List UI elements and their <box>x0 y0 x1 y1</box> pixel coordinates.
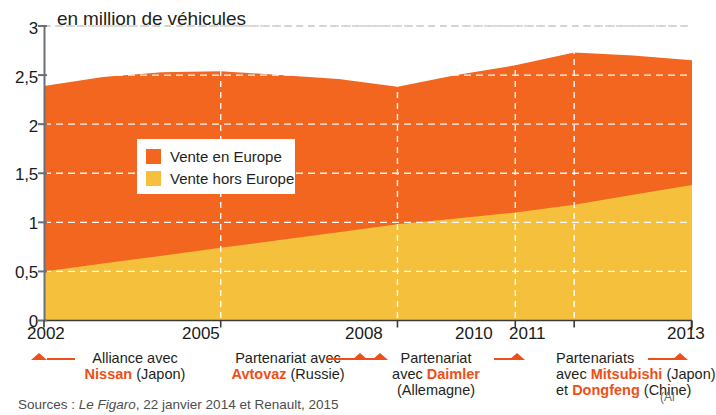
x-tick-2005: 2005 <box>182 325 220 342</box>
x-tick-2008: 2008 <box>345 325 383 342</box>
y-tick-3: 3 <box>2 20 38 37</box>
legend-swatch-icon-orange <box>146 149 161 164</box>
annotation-avtovaz-country: (Russie) <box>287 366 345 382</box>
annotation-nissan: Alliance avec Nissan (Japon) <box>80 350 190 382</box>
annotation-mitsubishi-country: (Japon) <box>662 366 715 382</box>
annotation-nissan-brand: Nissan <box>85 366 133 382</box>
annotation-daimler-line2-prefix: avec <box>392 366 427 382</box>
y-tick-1: 1 <box>2 215 38 232</box>
sources-prefix: Sources : <box>18 397 79 412</box>
annotation-avtovaz: Partenariat avec Avtovaz (Russie) <box>218 350 358 382</box>
x-tick-2011: 2011 <box>509 325 546 342</box>
legend-label-vente-hors-europe: Vente hors Europe <box>170 171 294 186</box>
annotation-marker-icon-daimler-left <box>352 353 368 360</box>
annotation-dongfeng-line3-prefix: et <box>556 382 572 398</box>
annotation-avtovaz-brand: Avtovaz <box>231 366 286 382</box>
annotation-nissan-country: (Japon) <box>132 366 185 382</box>
annotation-mitsubishi-line2-prefix: avec <box>556 366 591 382</box>
event-annotations: Alliance avec Nissan (Japon) Partenariat… <box>0 349 715 395</box>
legend-swatch-icon-yellow <box>146 171 161 186</box>
legend-label-vente-en-europe: Vente en Europe <box>170 149 282 164</box>
chart-legend: Vente en Europe Vente hors Europe <box>137 139 295 194</box>
annotation-daimler-line3: (Allemagne) <box>372 382 500 398</box>
annotation-marker-icon-daimler-right <box>509 353 525 360</box>
annotation-leader-line-nissan <box>47 358 75 360</box>
legend-item-vente-hors-europe: Vente hors Europe <box>146 167 287 189</box>
annotation-daimler-brand: Daimler <box>427 366 480 382</box>
y-tick-2-5: 2,5 <box>2 69 38 86</box>
annotation-daimler: Partenariat avec Daimler (Allemagne) <box>372 350 500 398</box>
page-title: en million de véhicules <box>57 8 246 30</box>
y-tick-2: 2 <box>2 118 38 135</box>
annotation-dongfeng-brand: Dongfeng <box>572 382 640 398</box>
sources-caption: Sources : Le Figaro, 22 janvier 2014 et … <box>18 397 338 412</box>
annotation-nissan-line1: Alliance avec <box>80 350 190 366</box>
y-tick-0-5: 0,5 <box>2 264 38 281</box>
annotation-marker-icon-mitsubishi <box>672 353 688 360</box>
x-axis-labels: 2002 2005 2008 2010 2011 2013 <box>0 325 715 349</box>
annotation-marker-icon-nissan <box>31 353 47 360</box>
annotation-daimler-line1: Partenariat <box>372 350 500 366</box>
x-tick-2002: 2002 <box>27 325 65 342</box>
y-tick-1-5: 1,5 <box>2 166 38 183</box>
sources-publication: Le Figaro <box>79 397 136 412</box>
y-axis-labels: 3 2,5 2 1,5 1 0,5 0 <box>0 0 38 340</box>
x-tick-2013: 2013 <box>667 325 705 342</box>
legend-item-vente-en-europe: Vente en Europe <box>146 145 287 167</box>
annotation-mitsubishi-brand: Mitsubishi <box>591 366 663 382</box>
credit-note: (Al <box>660 390 675 404</box>
sources-suffix: , 22 janvier 2014 et Renault, 2015 <box>136 397 339 412</box>
x-tick-2010: 2010 <box>455 325 493 342</box>
